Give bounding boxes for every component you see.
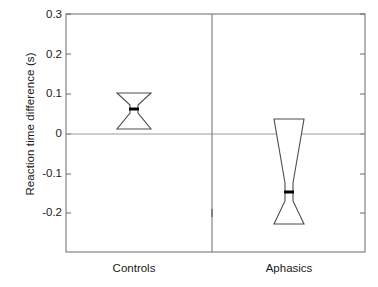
notched-box-controls <box>117 93 151 129</box>
y-tick-label: -0.2 <box>28 206 62 218</box>
y-tick-label: -0.1 <box>28 167 62 179</box>
y-axis-ticks <box>66 14 365 213</box>
y-tick-label: 0.1 <box>28 87 62 99</box>
box-plot-figure: Reaction time difference (s) 0.3 0.2 0.1… <box>0 0 378 287</box>
x-tick-label-controls: Controls <box>113 262 156 274</box>
boxplot-controls <box>117 93 151 129</box>
y-tick-label: 0.3 <box>28 8 62 20</box>
boxplot-aphasics <box>274 119 304 224</box>
notched-box-aphasics <box>274 119 304 224</box>
y-tick-label: 0.2 <box>28 48 62 60</box>
axis-frame <box>66 14 365 252</box>
y-tick-label: 0 <box>28 127 62 139</box>
y-axis-tick-labels: 0.3 0.2 0.1 0 -0.1 -0.2 <box>24 0 62 287</box>
x-tick-label-aphasics: Aphasics <box>266 262 313 274</box>
